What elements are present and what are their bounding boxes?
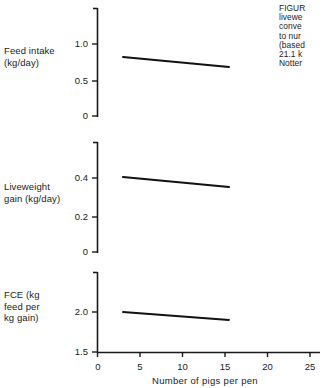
xtick-label-20: 20 bbox=[258, 362, 278, 372]
xtick-label-0: 0 bbox=[88, 362, 108, 372]
xtick-label-25: 25 bbox=[300, 362, 320, 372]
panel-feed-intake-axis-label: Feed intake (kg/day) bbox=[4, 45, 55, 68]
figure-caption: FIGUR livewe conve to nur (based 21.1 k … bbox=[279, 4, 323, 68]
ytick-label-fce-2: 1.5 bbox=[58, 347, 88, 357]
xtick-label-15: 15 bbox=[215, 362, 235, 372]
panel-liveweight-gain-plot bbox=[0, 140, 323, 270]
data-line-feed-intake bbox=[123, 57, 229, 67]
ytick-label-feed-1: 1.0 bbox=[58, 39, 88, 49]
ytick-label-lwg-1: 0.4 bbox=[58, 173, 88, 183]
caption-line-7: Notter bbox=[279, 59, 323, 68]
ytick-label-feed-3: 0 bbox=[58, 111, 88, 121]
figure-three-panel-line-charts: Feed intake (kg/day) 1.0 0.5 0 Liveweigh… bbox=[0, 0, 323, 388]
data-line-liveweight-gain bbox=[123, 177, 229, 187]
ytick-label-feed-2: 0.5 bbox=[58, 76, 88, 86]
xtick-label-5: 5 bbox=[130, 362, 150, 372]
ytick-label-lwg-3: 0 bbox=[58, 247, 88, 257]
ytick-label-fce-1: 2.0 bbox=[58, 307, 88, 317]
data-line-fce bbox=[123, 312, 229, 320]
panel-fce-axis-label: FCE (kg feed per kg gain) bbox=[4, 289, 40, 324]
x-axis-title: Number of pigs per pen bbox=[152, 375, 258, 386]
panel-liveweight-gain-axis-label: Liveweight gain (kg/day) bbox=[4, 181, 60, 204]
xtick-label-10: 10 bbox=[173, 362, 193, 372]
ytick-label-lwg-2: 0.2 bbox=[58, 212, 88, 222]
